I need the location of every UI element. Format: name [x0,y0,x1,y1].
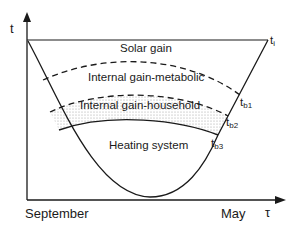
y-axis-label: t [10,22,14,35]
metabolic-gain-label: Internal gain-metabolic [88,72,204,84]
x-axis-label: τ [265,206,270,219]
point-tb1: tb1 [240,97,252,110]
heating-system-label: Heating system [109,140,188,152]
y-axis-arrow-icon [23,12,31,22]
x-end-label: May [221,207,246,220]
point-tb3: tb3 [211,138,223,151]
diagram-canvas [0,0,301,231]
point-ti: ti [270,35,275,48]
point-tb2: tb2 [226,117,238,130]
household-gain-label: Internal gain-household [80,100,200,112]
x-start-label: September [25,207,89,220]
x-axis-arrow-icon [275,196,286,204]
solar-gain-label: Solar gain [120,43,172,55]
